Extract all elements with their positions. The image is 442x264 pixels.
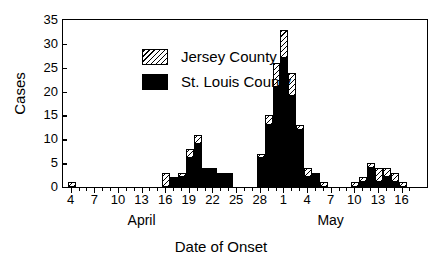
x-tick-minor bbox=[291, 187, 292, 191]
x-tick-label: 16 bbox=[387, 193, 417, 207]
bar-segment-jersey-county bbox=[359, 177, 367, 182]
x-tick-minor bbox=[252, 187, 253, 191]
x-tick-minor bbox=[126, 187, 127, 191]
legend-swatch-hatch-icon bbox=[142, 49, 168, 65]
epidemic-curve-chart: Cases 05101520253035 Jersey County St. L… bbox=[0, 0, 442, 264]
y-tick-label: 25 bbox=[30, 61, 58, 74]
bar-segment-jersey-county bbox=[367, 163, 375, 168]
x-tick-minor bbox=[346, 187, 347, 191]
y-tick-label: 10 bbox=[30, 132, 58, 145]
bar-segment-st-louis-county bbox=[273, 87, 281, 187]
legend-swatch-solid-icon bbox=[142, 74, 168, 90]
y-tick-mark bbox=[63, 92, 67, 94]
bar-column bbox=[304, 168, 312, 187]
x-tick-minor bbox=[228, 187, 229, 191]
x-tick-minor bbox=[370, 187, 371, 191]
bar-segment-st-louis-county bbox=[265, 125, 273, 187]
bar-column bbox=[391, 173, 399, 187]
bar-segment-jersey-county bbox=[265, 115, 273, 125]
legend-item-st-louis-county: St. Louis County bbox=[142, 71, 291, 93]
bar-segment-st-louis-county bbox=[296, 130, 304, 187]
bar-segment-jersey-county bbox=[257, 154, 265, 159]
legend-label-jersey-county: Jersey County bbox=[181, 49, 277, 65]
bar-column bbox=[217, 173, 225, 187]
bar-segment-jersey-county bbox=[375, 168, 383, 182]
bar-segment-jersey-county bbox=[383, 168, 391, 178]
bar-column bbox=[225, 173, 233, 187]
x-tick-minor bbox=[268, 187, 269, 191]
x-tick-minor bbox=[173, 187, 174, 191]
bar-segment-st-louis-county bbox=[217, 173, 225, 187]
x-tick-minor bbox=[181, 187, 182, 191]
bar-column bbox=[194, 135, 202, 187]
x-tick-minor bbox=[110, 187, 111, 191]
bar-segment-st-louis-county bbox=[312, 173, 320, 187]
x-tick-minor bbox=[299, 187, 300, 191]
x-tick-minor bbox=[157, 187, 158, 191]
bar-segment-jersey-county bbox=[178, 173, 186, 178]
y-tick-label: 0 bbox=[30, 180, 58, 193]
bar-column bbox=[383, 168, 391, 187]
x-tick-minor bbox=[386, 187, 387, 191]
y-tick-mark bbox=[63, 115, 67, 117]
bar-segment-jersey-county bbox=[304, 168, 312, 178]
x-tick-minor bbox=[205, 187, 206, 191]
bar-column bbox=[375, 168, 383, 187]
y-tick-mark bbox=[63, 163, 67, 165]
bar-column bbox=[257, 154, 265, 187]
bar-segment-st-louis-county bbox=[304, 177, 312, 187]
x-axis-month-label: May bbox=[296, 212, 366, 228]
bar-segment-st-louis-county bbox=[194, 144, 202, 187]
bar-segment-st-louis-county bbox=[178, 177, 186, 187]
bar-segment-st-louis-county bbox=[367, 168, 375, 187]
x-tick-minor bbox=[79, 187, 80, 191]
chart-legend: Jersey County St. Louis County bbox=[142, 46, 291, 96]
bar-segment-jersey-county bbox=[186, 149, 194, 159]
bar-segment-st-louis-county bbox=[257, 158, 265, 187]
bar-column bbox=[202, 168, 210, 187]
y-axis-tick-labels: 05101520253035 bbox=[30, 11, 58, 194]
y-tick-label: 15 bbox=[30, 108, 58, 121]
bar-column bbox=[359, 177, 367, 187]
bar-segment-st-louis-county bbox=[288, 96, 296, 187]
x-tick-minor bbox=[362, 187, 363, 191]
bar-column bbox=[210, 168, 218, 187]
bar-segment-st-louis-county bbox=[210, 168, 218, 187]
bar-segment-jersey-county bbox=[162, 173, 170, 187]
bar-segment-st-louis-county bbox=[170, 177, 178, 187]
x-axis-tick-labels: 4710131619222528147101316 bbox=[0, 193, 442, 209]
y-tick-mark bbox=[63, 139, 67, 141]
x-tick-minor bbox=[276, 187, 277, 191]
x-axis-title: Date of Onset bbox=[0, 238, 442, 255]
x-tick-minor bbox=[244, 187, 245, 191]
bar-column bbox=[367, 163, 375, 187]
bar-column bbox=[312, 173, 320, 187]
y-tick-label: 30 bbox=[30, 37, 58, 50]
bar-column bbox=[162, 173, 170, 187]
bar-column bbox=[170, 177, 178, 187]
x-tick-minor bbox=[149, 187, 150, 191]
x-tick-minor bbox=[394, 187, 395, 191]
bar-segment-jersey-county bbox=[391, 173, 399, 183]
y-tick-label: 20 bbox=[30, 85, 58, 98]
bar-column bbox=[296, 125, 304, 187]
y-tick-label: 35 bbox=[30, 13, 58, 26]
bar-segment-jersey-county bbox=[296, 125, 304, 130]
y-tick-label: 5 bbox=[30, 156, 58, 169]
x-tick-minor bbox=[409, 187, 410, 191]
bar-segment-st-louis-county bbox=[186, 158, 194, 187]
x-tick-minor bbox=[315, 187, 316, 191]
x-tick-minor bbox=[220, 187, 221, 191]
x-tick-minor bbox=[197, 187, 198, 191]
x-tick-minor bbox=[134, 187, 135, 191]
legend-item-jersey-county: Jersey County bbox=[142, 46, 291, 68]
x-tick-minor bbox=[323, 187, 324, 191]
bar-segment-st-louis-county bbox=[225, 173, 233, 187]
y-tick-mark bbox=[63, 68, 67, 70]
x-tick-minor bbox=[86, 187, 87, 191]
y-axis-title: Cases bbox=[11, 54, 28, 134]
y-tick-mark bbox=[63, 44, 67, 46]
x-tick-minor bbox=[102, 187, 103, 191]
bar-column bbox=[265, 115, 273, 187]
x-tick-minor bbox=[339, 187, 340, 191]
